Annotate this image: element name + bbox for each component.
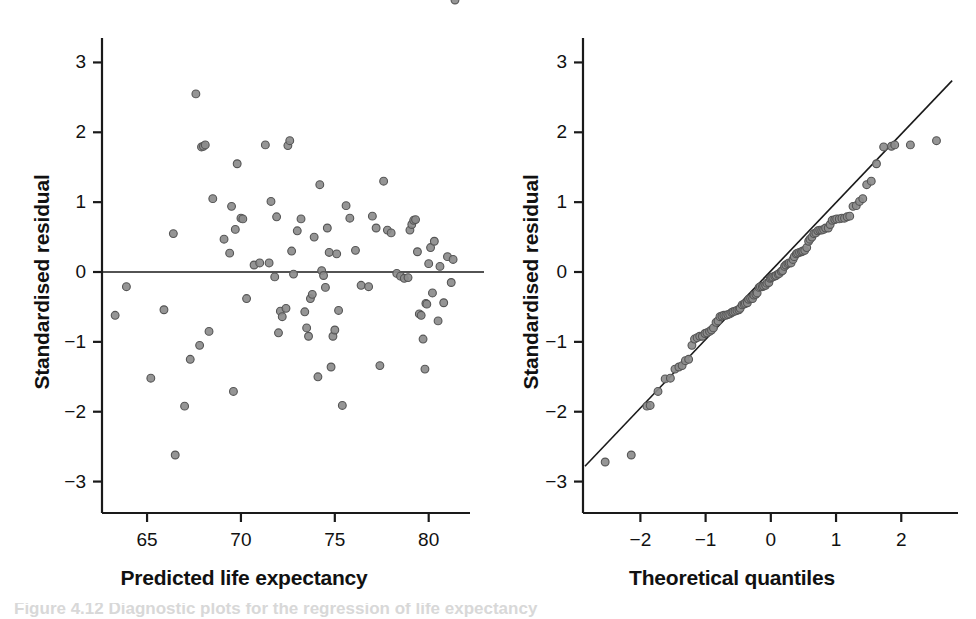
data-point: [305, 332, 313, 340]
data-point: [387, 229, 395, 237]
data-point: [627, 451, 635, 459]
data-point: [846, 212, 854, 220]
normal-qq-plot: [488, 0, 976, 619]
data-point: [404, 274, 412, 282]
data-point: [196, 341, 204, 349]
data-point: [226, 249, 234, 257]
data-point: [685, 355, 693, 363]
data-point: [646, 402, 654, 410]
y-tick-label: −3: [64, 471, 86, 493]
x-tick-label: −2: [630, 529, 652, 551]
data-point: [192, 90, 200, 98]
data-point: [867, 177, 875, 185]
left-x-axis-title: Predicted life expectancy: [0, 566, 488, 590]
data-point: [666, 374, 674, 382]
data-point: [335, 307, 343, 315]
right-x-ticks: [640, 513, 901, 522]
data-point: [171, 451, 179, 459]
data-point: [301, 308, 309, 316]
y-tick-label: 0: [556, 261, 567, 283]
y-tick-label: 0: [75, 261, 86, 283]
data-point: [303, 324, 311, 332]
data-point: [365, 283, 373, 291]
data-point: [228, 202, 236, 210]
data-point: [265, 259, 273, 267]
data-point: [421, 365, 429, 373]
data-point: [423, 300, 431, 308]
data-point: [231, 226, 239, 234]
data-point: [880, 143, 888, 151]
x-tick-label: 75: [324, 529, 345, 551]
left-scatter-points: [111, 0, 459, 459]
y-tick-label: −2: [545, 401, 567, 423]
y-tick-label: −1: [64, 331, 86, 353]
left-x-ticks: [147, 513, 429, 522]
data-point: [308, 290, 316, 298]
right-y-axis-title: Standardised residual: [519, 157, 543, 407]
data-point: [256, 259, 264, 267]
qq-reference-line: [585, 81, 952, 467]
data-point: [209, 195, 217, 203]
data-point: [376, 362, 384, 370]
data-point: [891, 141, 899, 149]
data-point: [290, 270, 298, 278]
data-point: [449, 256, 457, 264]
data-point: [352, 246, 360, 254]
data-point: [414, 248, 422, 256]
data-point: [440, 299, 448, 307]
data-point: [325, 249, 333, 257]
y-tick-label: −1: [545, 331, 567, 353]
data-point: [282, 304, 290, 312]
y-tick-label: 3: [556, 51, 567, 73]
x-tick-label: 70: [230, 529, 251, 551]
data-point: [230, 388, 238, 396]
left-y-axis-title: Standardised residual: [30, 157, 54, 407]
x-tick-label: 0: [766, 529, 777, 551]
data-point: [906, 141, 914, 149]
data-point: [169, 230, 177, 238]
residual-vs-fitted-panel: 3210−1−2−3 65707580 Predicted life expec…: [0, 0, 488, 619]
data-point: [275, 329, 283, 337]
data-point: [323, 224, 331, 232]
data-point: [417, 311, 425, 319]
data-point: [346, 214, 354, 222]
data-point: [320, 272, 328, 280]
data-point: [286, 137, 294, 145]
data-point: [333, 250, 341, 258]
x-tick-label: −1: [695, 529, 717, 551]
data-point: [273, 213, 281, 221]
y-tick-label: 1: [75, 191, 86, 213]
data-point: [933, 137, 941, 145]
data-point: [297, 215, 305, 223]
data-point: [357, 281, 365, 289]
x-tick-label: 1: [831, 529, 842, 551]
data-point: [310, 233, 318, 241]
data-point: [412, 216, 420, 224]
data-point: [271, 273, 279, 281]
y-tick-label: 3: [75, 51, 86, 73]
data-point: [160, 306, 168, 314]
data-point: [873, 160, 881, 168]
data-point: [205, 327, 213, 335]
data-point: [859, 195, 867, 203]
y-tick-label: 1: [556, 191, 567, 213]
x-tick-label: 80: [418, 529, 439, 551]
data-point: [447, 279, 455, 287]
data-point: [261, 141, 269, 149]
data-point: [429, 289, 437, 297]
data-point: [123, 283, 131, 291]
data-point: [368, 212, 376, 220]
y-tick-label: 2: [556, 121, 567, 143]
data-point: [327, 363, 335, 371]
data-point: [436, 263, 444, 271]
left-axes: [102, 38, 470, 513]
data-point: [419, 335, 427, 343]
data-point: [181, 402, 189, 410]
y-tick-label: 2: [75, 121, 86, 143]
data-point: [201, 141, 209, 149]
data-point: [267, 198, 275, 206]
y-tick-label: −2: [64, 401, 86, 423]
data-point: [434, 317, 442, 325]
data-point: [601, 458, 609, 466]
data-point: [322, 283, 330, 291]
